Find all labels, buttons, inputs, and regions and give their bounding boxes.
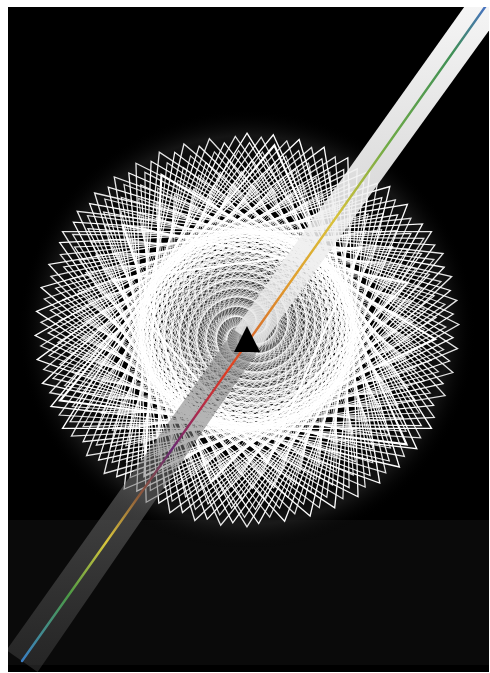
poster-root: Prismatic String-Art Mandala Dispersion …	[0, 0, 490, 673]
artwork-svg	[8, 7, 489, 672]
artboard-canvas	[8, 7, 489, 672]
